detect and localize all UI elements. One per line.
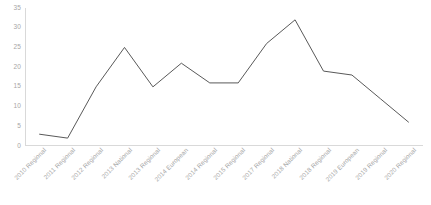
y-axis-tick-label: 35: [1, 5, 21, 12]
line-chart: 35302520151050 2010 Regional2011 Regiona…: [0, 0, 431, 205]
series-layer: [25, 8, 423, 146]
y-axis-tick-label: 10: [1, 103, 21, 110]
y-axis-tick-label: 5: [1, 123, 21, 130]
x-axis-tick-label: 2017 Regional: [241, 147, 275, 181]
y-axis: 35302520151050: [0, 0, 25, 154]
x-axis-tick-label: 2020 Regional: [383, 147, 417, 181]
y-axis-tick-label: 30: [1, 24, 21, 31]
y-axis-tick-label: 15: [1, 83, 21, 90]
series-line: [39, 20, 409, 138]
y-axis-tick-label: 0: [1, 143, 21, 150]
y-axis-tick-label: 25: [1, 44, 21, 51]
x-axis: 2010 Regional2011 Regional2012 Regional2…: [25, 147, 423, 205]
y-axis-tick-label: 20: [1, 64, 21, 71]
